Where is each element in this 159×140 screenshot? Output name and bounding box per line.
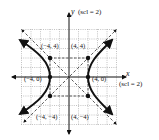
point-vertex-right <box>86 75 90 79</box>
label-corner-bottom-right: (4, −4) <box>71 113 89 121</box>
y-scale-label: (scl = 2) <box>78 8 102 16</box>
label-vertex-right: (4, 0) <box>92 75 106 83</box>
point-corner-bottom-right <box>86 94 90 98</box>
label-corner-bottom-left: (−4, −4) <box>36 113 57 121</box>
x-axis-label: x <box>125 69 130 78</box>
label-corner-top-left: (−4, 4) <box>41 42 59 50</box>
y-axis-label: y <box>70 7 75 16</box>
label-corner-top-right: (4, 4) <box>71 42 85 50</box>
point-corner-bottom-left <box>48 94 52 98</box>
label-vertex-left: (−4, 0) <box>24 75 42 83</box>
point-vertex-left <box>48 75 52 79</box>
point-corner-top-right <box>86 56 90 60</box>
point-corner-top-left <box>48 56 52 60</box>
x-scale-label: (scl = 2) <box>119 80 143 88</box>
hyperbola-diagram: y (scl = 2) x (scl = 2) (−4, 4) (4, 4) (… <box>0 0 159 140</box>
